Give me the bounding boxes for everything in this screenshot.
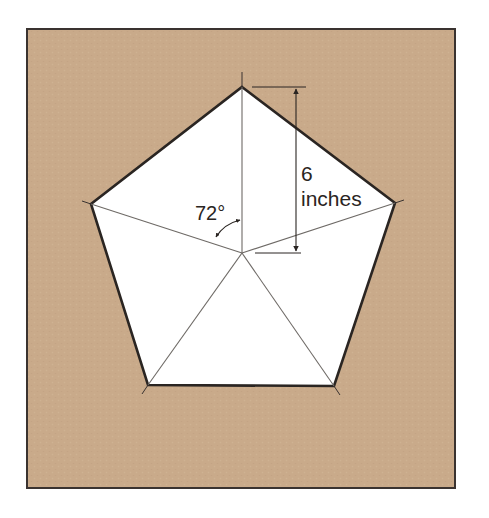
dimension-unit-label: inches — [301, 188, 362, 209]
angle-label: 72° — [195, 203, 225, 223]
pentagon-diagram — [0, 0, 489, 518]
dimension-value-label: 6 — [301, 163, 313, 184]
